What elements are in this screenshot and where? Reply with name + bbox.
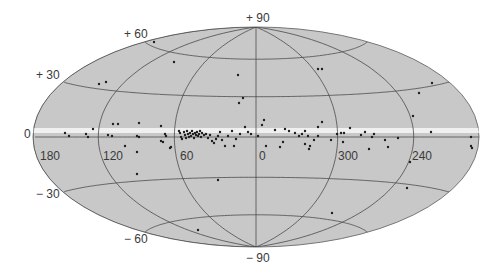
data-point [217,179,219,181]
data-point [105,81,107,83]
data-point [257,135,259,137]
data-point [430,131,432,133]
data-point [209,134,211,136]
lat-label-m30: − 30 [36,188,60,200]
data-point [169,147,171,149]
data-point [191,130,193,132]
data-point [136,173,138,175]
data-point [200,136,202,138]
data-point [197,229,199,231]
data-point [184,134,186,136]
data-point [317,135,319,137]
data-point [193,137,195,139]
data-point [211,140,213,142]
data-point [239,133,241,135]
lon-label-60: 60 [180,150,193,162]
data-point [136,151,138,153]
data-point [186,130,188,132]
data-point [371,136,373,138]
data-point [224,145,226,147]
data-point [317,126,319,128]
data-point [304,130,306,132]
data-point [298,135,300,137]
lon-label-180: 180 [40,150,60,162]
data-point [153,41,155,43]
data-point [98,83,100,85]
sky-map [0,0,496,273]
data-point [201,132,203,134]
lat-label-p90: + 90 [246,12,270,24]
data-point [470,136,472,138]
data-point [409,161,411,163]
lat-label-m60: − 60 [124,233,148,245]
data-point [124,145,126,147]
data-point [384,139,386,141]
data-point [160,140,162,142]
data-point [238,102,240,104]
data-point [301,133,303,135]
data-point [219,131,221,133]
data-point [231,130,233,132]
data-point [313,139,315,141]
data-point [340,132,342,134]
data-point [242,97,244,99]
data-point [307,135,309,137]
data-point [274,129,276,131]
data-point [317,68,319,70]
data-point [360,134,362,136]
data-point [304,143,306,145]
lon-label-0: 0 [259,150,266,162]
data-point [471,147,473,149]
data-point [196,131,198,133]
data-point [190,135,192,137]
data-point [87,136,89,138]
data-point [397,137,399,139]
data-point [406,187,408,189]
data-point [342,141,344,143]
data-point [165,135,167,137]
data-point [185,137,187,139]
data-point [282,141,284,143]
data-point [284,128,286,130]
data-point [138,136,140,138]
data-point [221,139,223,141]
data-point [309,145,311,147]
lon-label-300: 300 [338,150,358,162]
data-point [418,92,420,94]
data-point [308,148,310,150]
data-point [237,74,239,76]
lat-label-0: 0 [24,128,31,140]
data-point [179,132,181,134]
lon-label-240: 240 [412,150,432,162]
data-point [336,133,338,135]
data-point [263,119,265,121]
data-point [331,212,333,214]
data-point [160,125,162,127]
data-point [112,123,114,125]
data-point [364,131,366,133]
data-point [235,138,237,140]
data-point [138,122,140,124]
data-point [265,145,267,147]
data-point [64,132,66,134]
data-point [189,132,191,134]
data-point [85,133,87,135]
lat-label-p60: + 60 [124,28,148,40]
data-point [107,134,109,136]
data-point [217,135,219,137]
data-point [92,128,94,130]
data-point [247,131,249,133]
data-point [431,82,433,84]
lat-label-m90: − 90 [246,252,270,264]
data-point [111,135,113,137]
data-point [227,135,229,137]
data-point [207,137,209,139]
data-point [205,133,207,135]
data-point [330,139,332,141]
lon-label-120: 120 [103,150,123,162]
data-point [213,142,215,144]
data-point [373,133,375,135]
data-point [173,61,175,63]
data-point [288,130,290,132]
data-point [183,131,185,133]
